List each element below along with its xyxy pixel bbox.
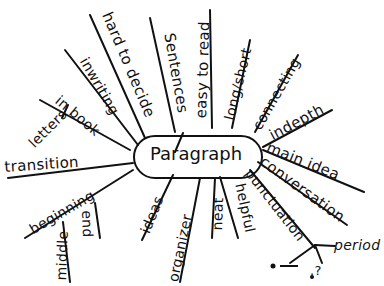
center-label: Paragraph	[150, 143, 242, 164]
branch-neat: neat	[210, 197, 225, 230]
branch-end: end	[80, 210, 95, 238]
question-mark: .?	[310, 264, 322, 277]
branch-easy-to-read: easy to read	[194, 21, 212, 119]
branch-middle: middle	[54, 230, 70, 280]
branch-period: period	[334, 238, 380, 252]
mind-map: Paragraph letters in book inwriting hard…	[0, 0, 384, 286]
